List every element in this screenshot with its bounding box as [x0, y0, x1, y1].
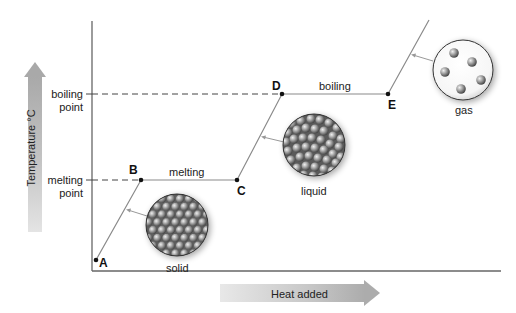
arrow-right-icon — [364, 280, 380, 306]
point-a-marker — [94, 258, 99, 263]
gas-particles-illustration — [433, 40, 493, 100]
liquid-state-label: liquid — [301, 185, 327, 197]
solid-pointer-head — [126, 209, 131, 213]
melting-segment-label: melting — [169, 166, 204, 178]
arrow-up-icon — [24, 62, 46, 77]
point-d-label: D — [272, 80, 281, 92]
gas-pointer — [413, 55, 433, 61]
point-c-marker — [235, 178, 240, 183]
point-e-label: E — [388, 99, 396, 111]
gas-state-label: gas — [455, 104, 473, 116]
x-axis-label: Heat added — [220, 288, 365, 300]
point-b-label: B — [129, 164, 138, 176]
liquid-particles-illustration — [282, 114, 346, 182]
heat-added-arrow: Heat added — [220, 280, 380, 306]
solid-pointer — [128, 210, 147, 216]
point-b-marker — [139, 178, 144, 183]
solid-state-label: solid — [166, 262, 189, 274]
pointer-arrows — [126, 54, 433, 217]
curve-points — [94, 92, 391, 263]
point-e-marker — [386, 92, 391, 97]
liquid-pointer — [263, 137, 284, 142]
liquid-pointer-head — [261, 136, 266, 140]
point-c-label: C — [237, 185, 246, 197]
gas-pointer-head — [411, 54, 416, 58]
solid-particles-illustration — [144, 192, 210, 258]
y-axis-label: Temperature °C — [25, 109, 37, 186]
heating-curve-diagram — [0, 0, 516, 313]
boiling-segment-label: boiling — [319, 80, 351, 92]
point-a-label: A — [99, 257, 108, 269]
